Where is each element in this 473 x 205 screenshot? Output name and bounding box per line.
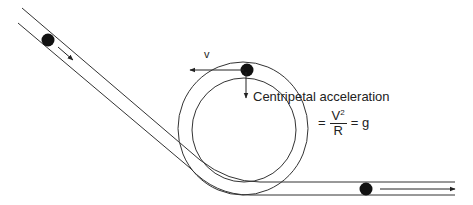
loop-track-diagram	[0, 0, 473, 205]
fraction-denominator: R	[333, 124, 342, 138]
numerator-exponent: 2	[340, 108, 344, 117]
ball-on-incline	[42, 34, 55, 47]
centripetal-equation: = V2 R = g	[318, 106, 369, 138]
track-upper-rail	[22, 8, 455, 182]
fraction-numerator: V2	[330, 106, 347, 124]
track-lower-rail	[18, 23, 455, 195]
ball-on-exit	[360, 183, 373, 196]
fraction: V2 R	[330, 106, 347, 138]
velocity-label: v	[204, 48, 210, 60]
equals-g: = g	[351, 115, 369, 130]
numerator-symbol: V	[332, 108, 341, 123]
centripetal-caption: Centripetal acceleration	[253, 89, 390, 104]
equals-sign: =	[318, 115, 326, 130]
